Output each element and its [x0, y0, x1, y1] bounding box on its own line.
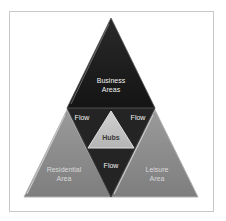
leisure-area-label: Leisure Area: [132, 165, 182, 183]
flow-label-upper-right: Flow: [126, 113, 150, 122]
pyramid-diagram: [0, 0, 226, 221]
business-label-line1: Business: [86, 76, 136, 85]
residential-label-line1: Residential: [38, 165, 90, 174]
leisure-label-line2: Area: [132, 174, 182, 183]
residential-area-label: Residential Area: [38, 165, 90, 183]
business-areas-label: Business Areas: [86, 76, 136, 94]
flow-label-upper-left: Flow: [70, 113, 94, 122]
hubs-label: Hubs: [97, 133, 125, 142]
residential-label-line2: Area: [38, 174, 90, 183]
flow-label-bottom: Flow: [99, 161, 123, 170]
leisure-label-line1: Leisure: [132, 165, 182, 174]
business-areas-triangle: [67, 18, 155, 108]
business-label-line2: Areas: [86, 85, 136, 94]
